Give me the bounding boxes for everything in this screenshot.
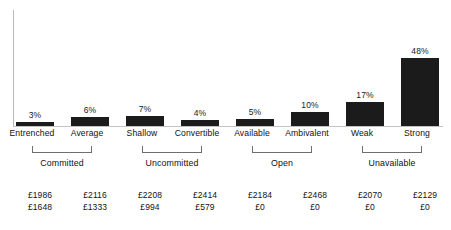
annotation-value-secondary: £1648 (12, 202, 68, 214)
bar-value-label: 7% (139, 104, 152, 114)
annotation-column-strong: £2129 £0 (397, 190, 451, 213)
bar-available[interactable] (236, 119, 274, 126)
annotation-column-ambivalent: £2468 £0 (287, 190, 343, 213)
annotation-value-primary: £2070 (342, 190, 398, 202)
annotation-column-convertible: £2414 £579 (177, 190, 233, 213)
bar-slot[interactable]: 4% (181, 108, 219, 126)
annotation-value-primary: £2129 (397, 190, 451, 202)
annotation-column-entrenched: £1986 £1648 (12, 190, 68, 213)
bar-weak[interactable] (346, 102, 384, 126)
annotation-value-secondary: £1333 (67, 202, 123, 214)
bar-slot[interactable]: 3% (16, 110, 54, 126)
annotation-value-secondary: £0 (342, 202, 398, 214)
bar-ambivalent[interactable] (291, 112, 329, 126)
group-bracket-uncommitted (142, 146, 202, 153)
annotation-value-primary: £2208 (122, 190, 178, 202)
annotation-value-primary: £2116 (67, 190, 123, 202)
group-label-open: Open (242, 157, 322, 169)
bar-slot[interactable]: 7% (126, 104, 164, 126)
plot-area: 3% 6% 7% 4% 5% 10% 17% 48% (14, 10, 443, 126)
bar-entrenched[interactable] (16, 122, 54, 126)
annotation-value-secondary: £0 (287, 202, 343, 214)
group-bracket-open (252, 146, 312, 153)
x-tick-label-strong: Strong (377, 128, 451, 139)
annotation-column-shallow: £2208 £994 (122, 190, 178, 213)
annotation-value-secondary: £0 (232, 202, 288, 214)
bar-value-label: 48% (411, 46, 428, 56)
bar-shallow[interactable] (126, 116, 164, 126)
bar-slot[interactable]: 6% (71, 105, 109, 126)
bar-value-label: 5% (249, 107, 262, 117)
bar-slot[interactable]: 5% (236, 107, 274, 126)
bar-chart: 3% 6% 7% 4% 5% 10% 17% 48% (0, 0, 451, 230)
group-label-committed: Committed (22, 157, 102, 169)
annotation-value-primary: £2414 (177, 190, 233, 202)
group-bracket-unavailable (362, 146, 422, 153)
bar-value-label: 3% (29, 110, 42, 120)
annotation-value-primary: £2468 (287, 190, 343, 202)
bar-value-label: 17% (356, 90, 373, 100)
bar-value-label: 6% (84, 105, 97, 115)
bar-average[interactable] (71, 117, 109, 126)
bar-value-label: 4% (194, 108, 207, 118)
annotation-column-available: £2184 £0 (232, 190, 288, 213)
bar-slot[interactable]: 48% (401, 46, 439, 126)
bar-slot[interactable]: 10% (291, 100, 329, 126)
annotation-value-primary: £1986 (12, 190, 68, 202)
annotation-value-secondary: £994 (122, 202, 178, 214)
group-label-unavailable: Unavailable (352, 157, 432, 169)
bar-strong[interactable] (401, 58, 439, 126)
bar-convertible[interactable] (181, 120, 219, 126)
bar-value-label: 10% (301, 100, 318, 110)
annotation-value-secondary: £579 (177, 202, 233, 214)
bar-slot[interactable]: 17% (346, 90, 384, 126)
annotation-value-primary: £2184 (232, 190, 288, 202)
annotation-column-weak: £2070 £0 (342, 190, 398, 213)
group-bracket-committed (32, 146, 92, 153)
annotation-value-secondary: £0 (397, 202, 451, 214)
x-axis-line (13, 126, 443, 127)
group-label-uncommitted: Uncommitted (132, 157, 212, 169)
annotation-column-average: £2116 £1333 (67, 190, 123, 213)
